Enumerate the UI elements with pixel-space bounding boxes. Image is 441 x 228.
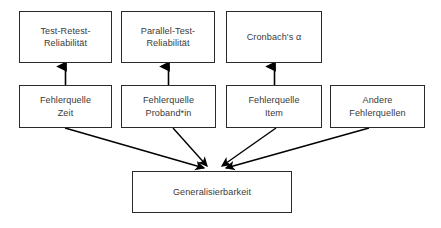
node-parallel-test-reliability[interactable]: Parallel-Test- Reliabilität	[121, 11, 215, 63]
node-error-source-item-label: Fehlerquelle Item	[246, 94, 301, 118]
node-error-source-person[interactable]: Fehlerquelle Proband*in	[121, 85, 216, 128]
node-generalizability-label: Generalisierbarkeit	[171, 186, 253, 198]
node-error-source-person-label: Fehlerquelle Proband*in	[141, 94, 196, 118]
node-error-source-time[interactable]: Fehlerquelle Zeit	[19, 85, 112, 128]
node-test-retest-reliability[interactable]: Test-Retest- Reliabilität	[19, 11, 112, 63]
diagram-canvas: Test-Retest- Reliabilität Parallel-Test-…	[0, 0, 441, 228]
node-error-source-item[interactable]: Fehlerquelle Item	[226, 85, 322, 128]
node-error-source-time-label: Fehlerquelle Zeit	[38, 94, 93, 118]
node-cronbach-alpha[interactable]: Cronbach's α	[226, 11, 322, 63]
node-cronbach-alpha-label: Cronbach's α	[245, 31, 304, 43]
node-error-source-other-label: Andere Fehlerquellen	[347, 94, 407, 118]
node-error-source-other[interactable]: Andere Fehlerquellen	[330, 85, 425, 128]
node-generalizability[interactable]: Generalisierbarkeit	[132, 171, 292, 213]
node-test-retest-label: Test-Retest- Reliabilität	[38, 25, 92, 49]
edge-source-time-to-generalizability	[65, 128, 204, 168]
node-parallel-test-label: Parallel-Test- Reliabilität	[139, 25, 197, 49]
edge-source-item-to-generalizability	[222, 128, 276, 166]
